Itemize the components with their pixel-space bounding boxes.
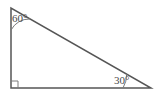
triangle-outline-path: [11, 8, 151, 88]
right-angle-marker-icon: [11, 81, 18, 88]
geometry-figure: 60° 30°: [0, 0, 160, 98]
angle-label-60: 60°: [12, 13, 27, 24]
angle-label-30: 30°: [114, 75, 129, 86]
